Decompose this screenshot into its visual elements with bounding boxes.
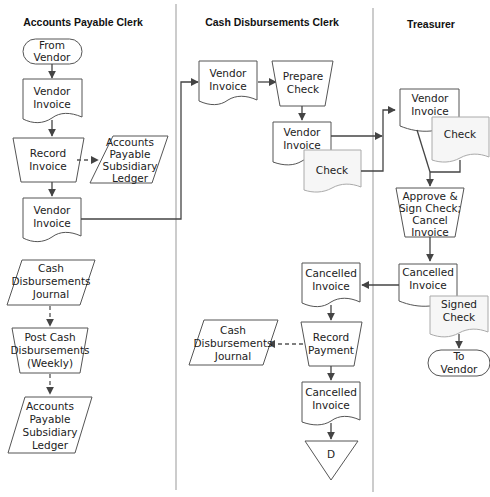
- svg-text:Cash: Cash: [38, 262, 64, 274]
- svg-text:Record: Record: [313, 331, 349, 343]
- svg-text:Vendor: Vendor: [34, 204, 72, 216]
- svg-text:Subsidiary: Subsidiary: [23, 426, 78, 438]
- svg-text:Check: Check: [287, 83, 320, 95]
- document-vendor-invoice-ap-1: Vendor Invoice: [23, 79, 82, 123]
- flow-connector: [361, 110, 395, 171]
- svg-text:Ledger: Ledger: [32, 439, 69, 451]
- svg-text:Approve &: Approve &: [402, 190, 457, 202]
- svg-text:Invoice: Invoice: [29, 160, 67, 172]
- svg-text:Accounts: Accounts: [106, 136, 154, 148]
- process-prepare-check: Prepare Check: [272, 61, 333, 106]
- svg-text:Cancelled: Cancelled: [305, 386, 357, 398]
- svg-text:D: D: [327, 448, 335, 460]
- document-vendor-invoice-cd-1: Vendor Invoice: [199, 61, 257, 105]
- svg-text:Invoice: Invoice: [209, 80, 247, 92]
- ledger-ap-subsidiary-1: Accounts Payable Subsidiary Ledger: [90, 136, 168, 184]
- svg-text:(Weekly): (Weekly): [27, 357, 73, 369]
- svg-text:Cancel: Cancel: [412, 214, 448, 226]
- journal-cash-disbursements-ap: Cash Disbursements Journal: [7, 260, 95, 305]
- document-cancelled-invoice-cd-1: Cancelled Invoice: [302, 263, 360, 307]
- svg-text:Invoice: Invoice: [33, 98, 71, 110]
- svg-text:Invoice: Invoice: [312, 280, 350, 292]
- svg-text:Record: Record: [30, 147, 66, 159]
- process-record-payment: Record Payment: [301, 322, 362, 366]
- terminator-to-vendor: To Vendor: [428, 350, 490, 376]
- svg-text:Subsidiary: Subsidiary: [103, 160, 158, 172]
- svg-text:Accounts: Accounts: [26, 400, 74, 412]
- svg-text:Journal: Journal: [214, 350, 251, 362]
- svg-text:Vendor: Vendor: [210, 67, 248, 79]
- journal-cash-disbursements-cd: Cash Disbursements Journal: [189, 320, 278, 365]
- svg-text:Disbursements: Disbursements: [194, 337, 273, 349]
- svg-text:Disbursements: Disbursements: [12, 275, 91, 287]
- svg-text:Prepare: Prepare: [283, 70, 323, 82]
- document-cancelled-invoice-cd-2: Cancelled Invoice: [302, 382, 360, 425]
- process-approve-sign-check: Approve & Sign Check; Cancel Invoice: [396, 188, 464, 238]
- document-signed-check-tr: Signed Check: [430, 296, 488, 337]
- svg-text:Invoice: Invoice: [411, 105, 449, 117]
- svg-text:To: To: [452, 350, 464, 362]
- flow-connector: [417, 130, 430, 172]
- svg-text:Vendor: Vendor: [34, 85, 72, 97]
- svg-text:Vendor: Vendor: [284, 126, 322, 138]
- svg-text:Invoice: Invoice: [312, 399, 350, 411]
- svg-text:Invoice: Invoice: [411, 226, 449, 238]
- svg-text:Vendor: Vendor: [441, 363, 479, 375]
- svg-text:Check: Check: [443, 311, 476, 323]
- process-record-invoice: Record Invoice: [13, 138, 84, 182]
- svg-text:From: From: [39, 39, 65, 51]
- lane-title-treasurer: Treasurer: [407, 18, 455, 30]
- ledger-ap-subsidiary-2: Accounts Payable Subsidiary Ledger: [8, 397, 92, 453]
- svg-text:Journal: Journal: [32, 288, 69, 300]
- svg-text:Cash: Cash: [220, 324, 246, 336]
- document-check-cd: Check: [304, 150, 361, 192]
- svg-text:Disbursements: Disbursements: [11, 344, 90, 356]
- svg-text:Invoice: Invoice: [409, 279, 447, 291]
- lane-title-cd-clerk: Cash Disbursements Clerk: [205, 16, 339, 28]
- process-post-cash-disbursements: Post Cash Disbursements (Weekly): [11, 328, 90, 373]
- svg-text:Sign Check;: Sign Check;: [399, 202, 461, 214]
- svg-text:Payment: Payment: [308, 344, 354, 356]
- document-check-tr: Check: [432, 117, 489, 162]
- svg-text:Post Cash: Post Cash: [24, 331, 75, 343]
- flowchart: Accounts Payable Clerk Cash Disbursement…: [0, 0, 490, 497]
- svg-text:Payable: Payable: [110, 148, 151, 160]
- svg-text:Signed: Signed: [441, 298, 477, 310]
- svg-text:Check: Check: [316, 164, 349, 176]
- svg-text:Vendor: Vendor: [412, 92, 450, 104]
- svg-text:Check: Check: [444, 128, 477, 140]
- terminator-from-vendor: From Vendor: [23, 39, 82, 64]
- svg-text:Ledger: Ledger: [112, 172, 149, 184]
- file-offline-d: D: [305, 441, 358, 480]
- document-vendor-invoice-ap-2: Vendor Invoice: [23, 198, 81, 242]
- svg-text:Cancelled: Cancelled: [402, 266, 454, 278]
- svg-text:Invoice: Invoice: [283, 139, 321, 151]
- svg-text:Vendor: Vendor: [34, 51, 72, 63]
- lane-title-ap-clerk: Accounts Payable Clerk: [23, 16, 143, 28]
- svg-text:Payable: Payable: [30, 413, 71, 425]
- svg-text:Invoice: Invoice: [33, 217, 71, 229]
- svg-text:Cancelled: Cancelled: [305, 267, 357, 279]
